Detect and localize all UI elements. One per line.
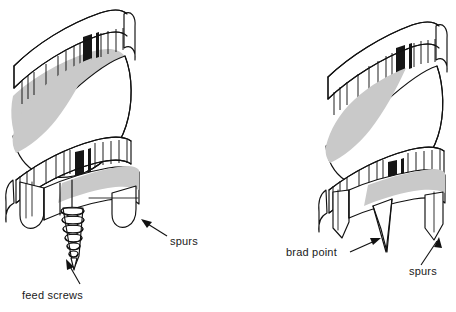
diagram-canvas: spurs feed screws brad point spurs xyxy=(0,0,456,312)
left-spur-lobe-right xyxy=(112,186,136,227)
left-lower-dark-band xyxy=(75,150,84,177)
callout-feed-screws-label: feed screws xyxy=(22,289,83,301)
right-upper-dark-band xyxy=(396,45,405,73)
callout-right-spurs-label: spurs xyxy=(409,265,437,277)
callout-brad-point-label: brad point xyxy=(286,246,337,258)
left-lower-dark-band-2 xyxy=(88,148,91,173)
callout-left-spurs-label: spurs xyxy=(170,235,198,247)
drill-bit-diagram: spurs feed screws brad point spurs xyxy=(0,0,456,312)
